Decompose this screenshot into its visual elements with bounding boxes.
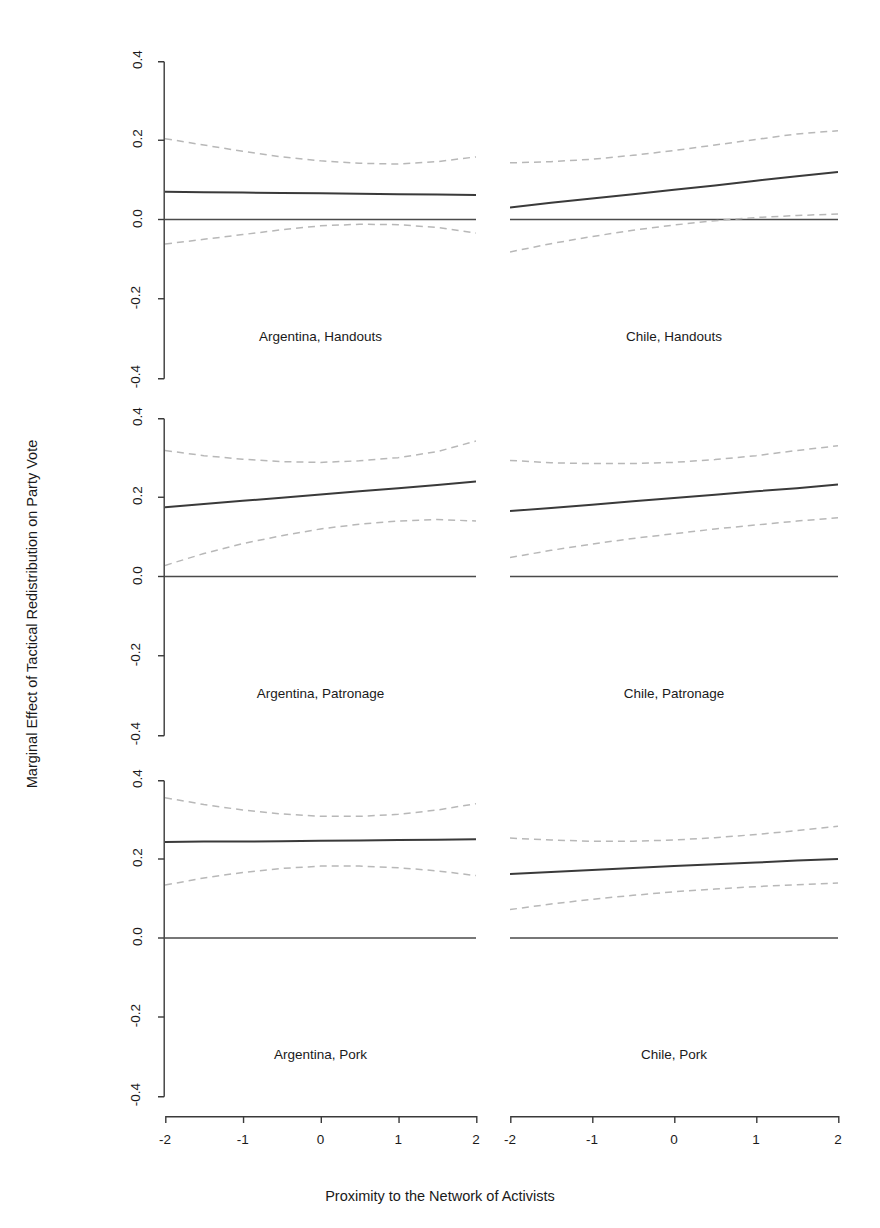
x-axis-tick-label: 1: [386, 1132, 410, 1147]
panel-caption: Argentina, Handouts: [259, 329, 382, 344]
clipped-header-text: [0, 0, 880, 3]
series-line-upper-95-ci: [510, 446, 838, 464]
y-axis-spine: [158, 781, 164, 1097]
y-axis-tick-label: -0.4: [113, 726, 147, 741]
series-line-marginal-effect: [165, 481, 476, 507]
x-axis-col-1: [510, 1116, 840, 1126]
series-line-upper-95-ci: [165, 139, 476, 164]
y-axis-tick-label: 0.0: [113, 568, 147, 583]
y-axis-tick-label: 0.2: [113, 488, 147, 503]
x-axis-tick-label: 0: [309, 1132, 333, 1147]
y-axis-tick-label: 0.4: [113, 409, 147, 424]
y-axis-tick-label: 0.2: [113, 131, 147, 146]
x-axis-tick-label: 2: [826, 1132, 850, 1147]
y-axis-tick-label: -0.4: [113, 369, 147, 384]
series-line-lower-95-ci: [510, 518, 838, 558]
series-line-upper-95-ci: [165, 441, 476, 462]
series-line-marginal-effect: [165, 192, 476, 195]
y-axis-label-text: Marginal Effect of Tactical Redistributi…: [24, 440, 40, 788]
y-axis-tick-label: 0.4: [113, 52, 147, 67]
x-axis-tick-label: 1: [744, 1132, 768, 1147]
series-line-marginal-effect: [165, 839, 476, 842]
y-axis-tick-label: 0.2: [113, 850, 147, 865]
y-axis-spine: [158, 419, 164, 736]
panel-caption: Chile, Handouts: [626, 329, 722, 344]
x-axis-label: Proximity to the Network of Activists: [0, 1188, 880, 1204]
panel-caption: Chile, Patronage: [624, 686, 725, 701]
series-line-marginal-effect: [510, 485, 838, 512]
x-axis-tick-label: -1: [580, 1132, 604, 1147]
marginal-effects-figure: Marginal Effect of Tactical Redistributi…: [0, 0, 880, 1228]
y-axis-tick-label: -0.4: [113, 1087, 147, 1102]
panel-caption: Argentina, Pork: [274, 1047, 367, 1062]
y-axis-tick-label: 0.0: [113, 929, 147, 944]
y-axis-label: Marginal Effect of Tactical Redistributi…: [18, 0, 46, 1228]
series-line-marginal-effect: [510, 859, 838, 874]
panel-caption: Argentina, Patronage: [257, 686, 385, 701]
series-line-upper-95-ci: [510, 131, 838, 163]
y-axis-spine: [158, 62, 164, 379]
x-axis-tick-label: -2: [498, 1132, 522, 1147]
series-line-lower-95-ci: [165, 224, 476, 244]
series-line-lower-95-ci: [165, 866, 476, 885]
series-line-marginal-effect: [510, 172, 838, 208]
x-axis-tick-label: -2: [153, 1132, 177, 1147]
series-line-lower-95-ci: [165, 519, 476, 565]
x-axis-col-0: [165, 1116, 478, 1126]
y-axis-tick-label: 0.0: [113, 211, 147, 226]
series-line-upper-95-ci: [510, 826, 838, 841]
panel-caption: Chile, Pork: [641, 1047, 707, 1062]
x-axis-tick-label: -1: [231, 1132, 255, 1147]
series-line-lower-95-ci: [510, 883, 838, 909]
y-axis-tick-label: 0.4: [113, 771, 147, 786]
x-axis-tick-label: 2: [464, 1132, 488, 1147]
y-axis-tick-label: -0.2: [113, 1008, 147, 1023]
series-line-upper-95-ci: [165, 798, 476, 817]
x-axis-tick-label: 0: [662, 1132, 686, 1147]
y-axis-tick-label: -0.2: [113, 290, 147, 305]
y-axis-tick-label: -0.2: [113, 647, 147, 662]
